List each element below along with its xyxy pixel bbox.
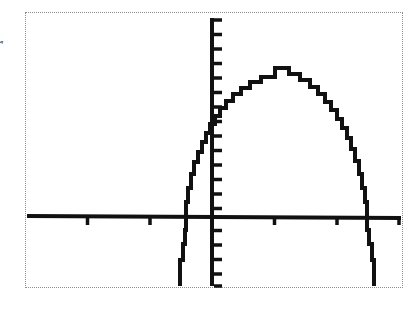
data-series-group (180, 68, 374, 286)
y-axis-ticks (214, 20, 222, 286)
caption-fragment-text: r (0, 32, 22, 58)
calculator-screen (25, 12, 403, 288)
plot-canvas (25, 12, 403, 288)
axes-group (27, 18, 401, 286)
curve-polyline (180, 68, 374, 286)
figure-root: r (0, 0, 418, 312)
